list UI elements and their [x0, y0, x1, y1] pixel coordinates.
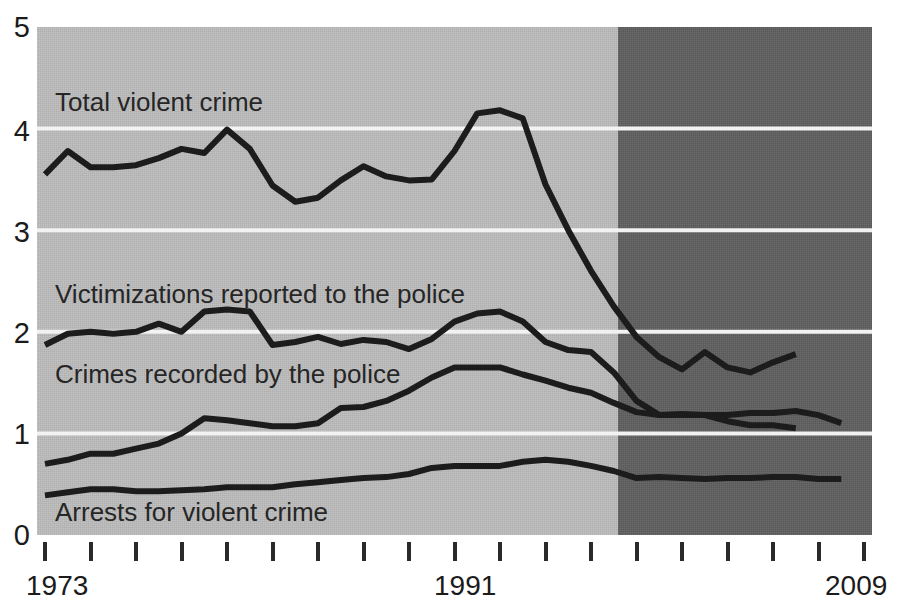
x-axis-tick	[43, 542, 47, 561]
x-axis-tick	[635, 542, 639, 561]
plot-area: Total violent crime Victimizations repor…	[37, 27, 872, 535]
x-axis-tick	[225, 542, 229, 561]
x-axis-tick	[407, 542, 411, 561]
x-axis-tick	[89, 542, 93, 561]
series-label-crimes-recorded: Crimes recorded by the police	[55, 361, 400, 387]
x-axis-tick	[134, 542, 138, 561]
x-axis-tick	[316, 542, 320, 561]
series-line-3	[45, 460, 841, 496]
x-axis-tick	[498, 542, 502, 561]
y-axis-label-4: 4	[0, 117, 30, 146]
x-axis-label-end: 2009	[825, 572, 887, 600]
x-axis-tick	[271, 542, 275, 561]
x-axis-label-mid: 1991	[434, 572, 496, 600]
x-axis-tick	[771, 542, 775, 561]
x-axis-tick	[726, 542, 730, 561]
x-axis-tick	[817, 542, 821, 561]
series-label-arrests: Arrests for violent crime	[55, 499, 328, 525]
x-axis-tick	[589, 542, 593, 561]
x-axis-tick	[544, 542, 548, 561]
series-label-victimizations-reported: Victimizations reported to the police	[55, 281, 465, 307]
x-axis-tick	[180, 542, 184, 561]
chart-figure: 5 4 3 2 1 0 Total violent crime Victimiz…	[0, 0, 899, 615]
series-label-total-violent-crime: Total violent crime	[55, 89, 263, 115]
x-axis-tick	[453, 542, 457, 561]
y-axis-label-5: 5	[0, 13, 30, 42]
y-axis-label-3: 3	[0, 218, 30, 247]
x-axis-tick	[680, 542, 684, 561]
x-axis-tick	[862, 542, 866, 561]
x-axis-label-start: 1973	[26, 572, 88, 600]
x-axis-tick	[362, 542, 366, 561]
y-axis-label-1: 1	[0, 420, 30, 449]
x-axis-ticks	[0, 542, 899, 562]
y-axis-label-2: 2	[0, 319, 30, 348]
